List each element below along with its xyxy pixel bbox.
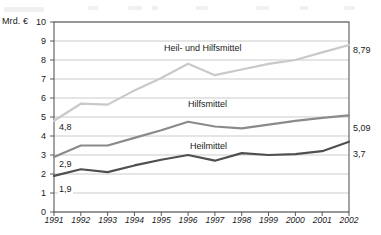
data-lines: [54, 45, 349, 176]
series-label-hilfsmittel: Hilfsmittel: [186, 100, 229, 109]
end-value-heilmittel: 3,7: [352, 150, 367, 159]
end-value-hilfsmittel: 5,09: [352, 124, 372, 133]
start-value-hilfsmittel: 2,9: [58, 160, 73, 169]
x-tick-marks: [54, 212, 349, 216]
start-value-heilmittel: 1,9: [58, 185, 73, 194]
end-value-heil-und-hilfsmittel: 8,79: [352, 46, 372, 55]
line-chart: Mrd. € 012345678910 19911992199319941995…: [0, 0, 381, 235]
plot-area: [0, 0, 381, 235]
series-label-heilmittel: Heilmittel: [188, 142, 229, 151]
series-label-heil-und-hilfsmittel: Heil- und Hilfsmittel: [162, 44, 244, 53]
start-value-heil-und-hilfsmittel: 4,8: [58, 123, 73, 132]
